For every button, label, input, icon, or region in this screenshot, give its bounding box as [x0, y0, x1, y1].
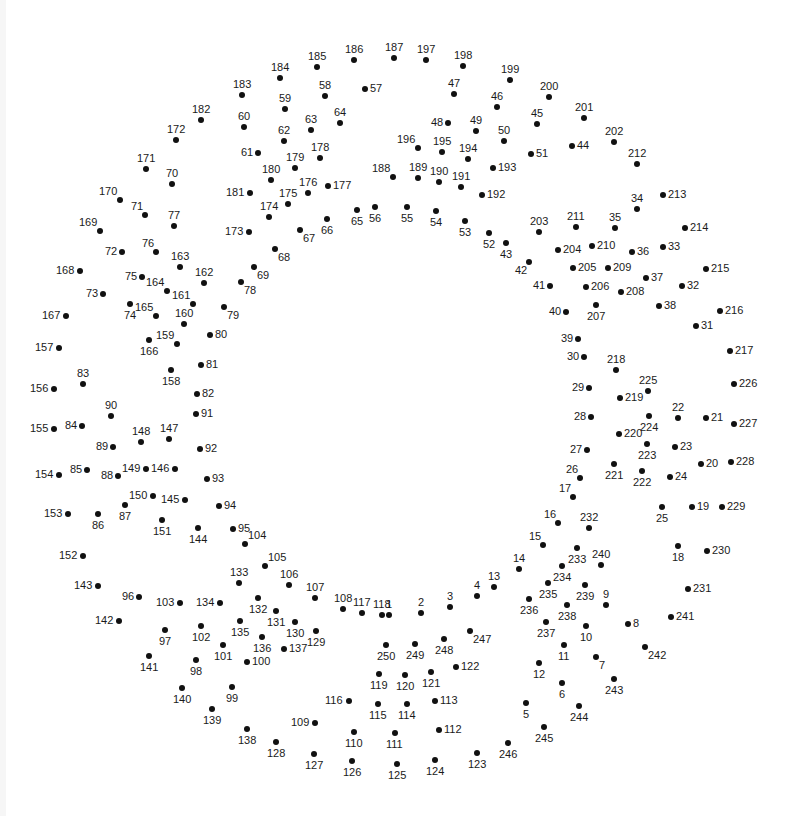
dot-233[interactable] [574, 545, 580, 551]
dot-22[interactable] [675, 415, 681, 421]
dot-39[interactable] [575, 336, 581, 342]
dot-105[interactable] [262, 563, 268, 569]
dot-63[interactable] [308, 127, 314, 133]
dot-95[interactable] [230, 526, 236, 532]
dot-173[interactable] [246, 229, 252, 235]
dot-112[interactable] [436, 727, 442, 733]
dot-229[interactable] [719, 504, 725, 510]
dot-113[interactable] [432, 698, 438, 704]
dot-239[interactable] [582, 582, 588, 588]
dot-231[interactable] [685, 586, 691, 592]
dot-145[interactable] [182, 497, 188, 503]
dot-118[interactable] [379, 612, 385, 618]
dot-85[interactable] [84, 467, 90, 473]
dot-81[interactable] [198, 362, 204, 368]
dot-34[interactable] [634, 206, 640, 212]
dot-250[interactable] [383, 642, 389, 648]
dot-30[interactable] [581, 354, 587, 360]
dot-133[interactable] [236, 580, 242, 586]
dot-241[interactable] [668, 614, 674, 620]
dot-168[interactable] [77, 268, 83, 274]
dot-141[interactable] [146, 653, 152, 659]
dot-51[interactable] [528, 151, 534, 157]
dot-197[interactable] [423, 57, 429, 63]
dot-152[interactable] [80, 553, 86, 559]
dot-99[interactable] [229, 684, 235, 690]
dot-139[interactable] [209, 706, 215, 712]
dot-147[interactable] [166, 436, 172, 442]
dot-46[interactable] [494, 104, 500, 110]
dot-12[interactable] [536, 660, 542, 666]
dot-27[interactable] [584, 447, 590, 453]
dot-234[interactable] [559, 563, 565, 569]
dot-108[interactable] [340, 606, 346, 612]
dot-245[interactable] [541, 724, 547, 730]
dot-120[interactable] [402, 672, 408, 678]
dot-157[interactable] [56, 345, 62, 351]
dot-14[interactable] [516, 566, 522, 572]
dot-203[interactable] [536, 229, 542, 235]
dot-37[interactable] [643, 275, 649, 281]
dot-140[interactable] [179, 685, 185, 691]
dot-235[interactable] [545, 580, 551, 586]
dot-143[interactable] [95, 583, 101, 589]
dot-227[interactable] [731, 421, 737, 427]
dot-238[interactable] [564, 602, 570, 608]
dot-223[interactable] [644, 441, 650, 447]
dot-1[interactable] [386, 612, 392, 618]
dot-119[interactable] [376, 671, 382, 677]
dot-160[interactable] [181, 321, 187, 327]
dot-97[interactable] [162, 627, 168, 633]
dot-64[interactable] [337, 120, 343, 126]
dot-170[interactable] [117, 197, 123, 203]
dot-200[interactable] [546, 94, 552, 100]
dot-5[interactable] [523, 700, 529, 706]
dot-13[interactable] [491, 584, 497, 590]
dot-134[interactable] [217, 600, 223, 606]
dot-93[interactable] [204, 476, 210, 482]
dot-163[interactable] [177, 264, 183, 270]
dot-44[interactable] [569, 143, 575, 149]
dot-220[interactable] [616, 431, 622, 437]
dot-50[interactable] [501, 138, 507, 144]
dot-175[interactable] [285, 201, 291, 207]
dot-186[interactable] [351, 57, 357, 63]
dot-205[interactable] [570, 265, 576, 271]
dot-201[interactable] [581, 115, 587, 121]
dot-48[interactable] [445, 120, 451, 126]
dot-56[interactable] [372, 204, 378, 210]
dot-166[interactable] [146, 337, 152, 343]
dot-129[interactable] [313, 628, 319, 634]
dot-149[interactable] [143, 466, 149, 472]
dot-189[interactable] [415, 175, 421, 181]
dot-136[interactable] [259, 634, 265, 640]
dot-232[interactable] [586, 525, 592, 531]
dot-121[interactable] [428, 669, 434, 675]
dot-221[interactable] [611, 461, 617, 467]
dot-101[interactable] [220, 642, 226, 648]
dot-74[interactable] [127, 301, 133, 307]
dot-90[interactable] [108, 413, 114, 419]
dot-167[interactable] [63, 313, 69, 319]
dot-66[interactable] [324, 216, 330, 222]
dot-65[interactable] [354, 207, 360, 213]
dot-159[interactable] [174, 341, 180, 347]
dot-202[interactable] [611, 139, 617, 145]
dot-9[interactable] [603, 602, 609, 608]
dot-110[interactable] [351, 729, 357, 735]
dot-217[interactable] [727, 348, 733, 354]
dot-103[interactable] [177, 600, 183, 606]
dot-15[interactable] [540, 542, 546, 548]
dot-43[interactable] [503, 240, 509, 246]
dot-76[interactable] [153, 249, 159, 255]
dot-240[interactable] [598, 562, 604, 568]
dot-161[interactable] [190, 301, 196, 307]
dot-73[interactable] [100, 291, 106, 297]
dot-165[interactable] [153, 313, 159, 319]
dot-40[interactable] [563, 309, 569, 315]
dot-53[interactable] [462, 218, 468, 224]
dot-204[interactable] [555, 247, 561, 253]
dot-61[interactable] [255, 150, 261, 156]
dot-164[interactable] [164, 288, 170, 294]
dot-212[interactable] [634, 161, 640, 167]
